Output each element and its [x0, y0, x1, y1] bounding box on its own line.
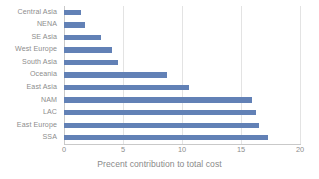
bar-row [64, 106, 300, 119]
y-axis-label-se-asia: SE Asia [0, 31, 60, 44]
y-axis-label-east-europe: East Europe [0, 119, 60, 132]
y-axis-label-central-asia: Central Asia [0, 6, 60, 19]
bar-se-asia [64, 35, 101, 40]
bar-row [64, 131, 300, 144]
y-axis-category-labels: Central Asia NENA SE Asia West Europe So… [0, 6, 60, 144]
y-axis-label-west-europe: West Europe [0, 44, 60, 57]
gridline-20 [300, 6, 301, 144]
x-tick-15: 15 [237, 146, 245, 153]
bar-nam [64, 97, 252, 102]
y-axis-label-ssa: SSA [0, 131, 60, 144]
bar-row [64, 31, 300, 44]
y-axis-label-south-asia: South Asia [0, 56, 60, 69]
bar-south-asia [64, 60, 118, 65]
x-tick-20: 20 [296, 146, 304, 153]
bar-row [64, 19, 300, 32]
bar-lac [64, 110, 256, 115]
y-axis-label-oceania: Oceania [0, 69, 60, 82]
bar-chart: Central Asia NENA SE Asia West Europe So… [0, 0, 319, 179]
y-axis-label-nena: NENA [0, 19, 60, 32]
x-tick-10: 10 [178, 146, 186, 153]
bar-row [64, 56, 300, 69]
y-axis-label-east-asia: East Asia [0, 81, 60, 94]
x-axis-tick-labels: 0 5 10 15 20 [64, 146, 300, 158]
bar-row [64, 69, 300, 82]
bar-row [64, 44, 300, 57]
bar-nena [64, 22, 85, 27]
bar-series [64, 6, 300, 144]
plot-area [64, 6, 300, 144]
x-axis-title: Precent contribution to total cost [0, 160, 319, 169]
x-tick-0: 0 [62, 146, 66, 153]
x-tick-5: 5 [121, 146, 125, 153]
bar-east-asia [64, 85, 189, 90]
bar-row [64, 119, 300, 132]
bar-east-europe [64, 123, 259, 128]
bar-row [64, 81, 300, 94]
bar-ssa [64, 135, 268, 140]
bar-oceania [64, 72, 167, 77]
bar-row [64, 6, 300, 19]
y-axis-label-nam: NAM [0, 94, 60, 107]
bar-west-europe [64, 47, 112, 52]
y-axis-label-lac: LAC [0, 106, 60, 119]
bar-central-asia [64, 10, 81, 15]
bar-row [64, 94, 300, 107]
